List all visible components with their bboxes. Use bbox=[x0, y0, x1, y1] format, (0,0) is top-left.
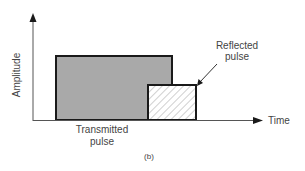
reflected-pulse bbox=[148, 85, 196, 120]
y-axis-arrow-icon bbox=[30, 13, 37, 22]
reflected-label-line1: Reflected bbox=[216, 40, 258, 51]
x-axis-label: Time bbox=[268, 115, 290, 126]
reflected-label-line2: pulse bbox=[225, 51, 249, 62]
transmitted-label-line2: pulse bbox=[90, 136, 114, 147]
y-axis-label: Amplitude bbox=[11, 52, 22, 97]
transmitted-label-line1: Transmitted bbox=[76, 124, 128, 135]
figure-caption: (b) bbox=[144, 152, 154, 161]
reflected-pointer-line bbox=[200, 64, 217, 82]
pulse-diagram: Amplitude Time Transmitted pulse Reflect… bbox=[0, 0, 305, 171]
x-axis-arrow-icon bbox=[253, 117, 263, 124]
